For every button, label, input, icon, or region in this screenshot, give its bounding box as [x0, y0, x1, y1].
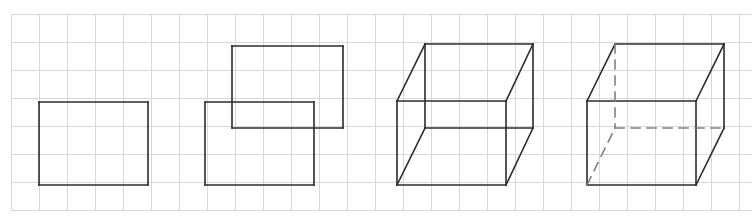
cube-drawing-sequence-panel: Step 1: front square faceStep 2: front f… — [0, 0, 752, 220]
grid-lines — [11, 14, 752, 211]
graph-paper-grid — [0, 0, 752, 220]
